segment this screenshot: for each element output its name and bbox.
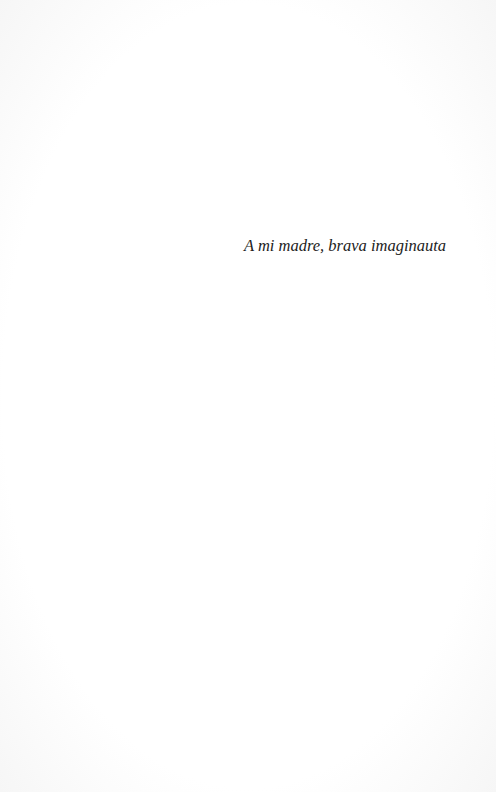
book-page: A mi madre, brava imaginauta	[0, 0, 496, 792]
dedication-text: A mi madre, brava imaginauta	[244, 236, 446, 256]
